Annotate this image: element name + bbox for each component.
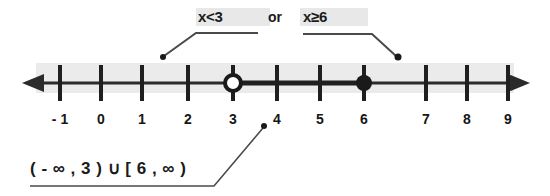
label-conjunction: or [268, 10, 282, 24]
tick-label-8: 8 [463, 112, 471, 126]
tick-label-5: 5 [316, 112, 324, 126]
number-line-diagram: x<3 or x≥6 - 1 0 1 2 3 4 5 6 7 8 9 ( - ∞… [0, 0, 550, 196]
leader-left-path [164, 33, 258, 56]
leader-interval-dot [261, 123, 267, 129]
leader-right-dot [395, 54, 402, 61]
leader-left-dot [160, 54, 166, 60]
tick-label-3: 3 [229, 112, 237, 126]
interval-notation: ( - ∞ , 3 ) ∪ [ 6 , ∞ ) [30, 160, 186, 177]
tick-label--1: - 1 [52, 112, 68, 126]
leader-right-path [303, 34, 396, 56]
arrow-left-icon [22, 74, 44, 92]
open-circle-at-3 [225, 75, 241, 91]
tick-label-0: 0 [97, 112, 105, 126]
leader-right-inequality [303, 34, 402, 61]
tick-label-1: 1 [138, 112, 146, 126]
tick-label-4: 4 [273, 112, 281, 126]
label-right-inequality: x≥6 [303, 9, 327, 24]
tick-label-2: 2 [184, 112, 192, 126]
tick-label-9: 9 [504, 112, 512, 126]
leader-left-inequality [160, 33, 258, 60]
arrow-right-icon [508, 74, 530, 92]
label-left-inequality: x<3 [198, 9, 223, 24]
closed-circle-at-6 [356, 75, 372, 91]
tick-label-6: 6 [360, 112, 368, 126]
tick-label-7: 7 [422, 112, 430, 126]
